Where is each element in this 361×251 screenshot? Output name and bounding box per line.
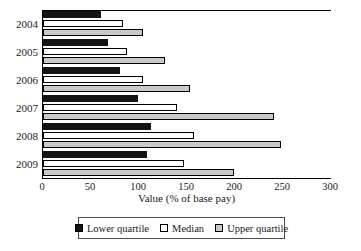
bar-group-2009 bbox=[43, 150, 331, 178]
x-tick-150: 150 bbox=[178, 181, 194, 192]
legend-label-lower-quartile: Lower quartile bbox=[87, 223, 149, 234]
x-axis-title: Value (% of base pay) bbox=[42, 192, 331, 204]
legend-label-median: Median bbox=[172, 223, 204, 234]
legend-item-median: Median bbox=[160, 223, 204, 234]
bar-2007-median bbox=[43, 104, 177, 111]
bar-group-2006 bbox=[43, 66, 331, 94]
legend-item-upper-quartile: Upper quartile bbox=[215, 223, 288, 234]
plot-area bbox=[42, 10, 331, 178]
legend-swatch-median bbox=[160, 224, 168, 232]
bar-2007-upper bbox=[43, 113, 274, 120]
x-tick-250: 250 bbox=[274, 181, 290, 192]
bar-2009-lower bbox=[43, 151, 147, 158]
bar-2008-upper bbox=[43, 141, 281, 148]
bar-2008-lower bbox=[43, 123, 151, 130]
x-axis-line bbox=[42, 178, 331, 179]
bar-2005-lower bbox=[43, 39, 108, 46]
bar-2009-median bbox=[43, 160, 184, 167]
x-tick-50: 50 bbox=[85, 181, 96, 192]
bar-chart: 200420052006200720082009 050100150200250… bbox=[0, 0, 361, 251]
y-axis-label-2009: 2009 bbox=[0, 159, 38, 170]
bar-2005-median bbox=[43, 48, 127, 55]
bar-2006-upper bbox=[43, 85, 190, 92]
y-axis-label-2004: 2004 bbox=[0, 19, 38, 30]
bar-2008-median bbox=[43, 132, 194, 139]
bar-2004-lower bbox=[43, 11, 101, 18]
bar-group-2008 bbox=[43, 122, 331, 150]
bar-2004-median bbox=[43, 20, 123, 27]
legend-swatch-lower-quartile bbox=[75, 224, 83, 232]
x-tick-300: 300 bbox=[322, 181, 338, 192]
legend-swatch-upper-quartile bbox=[215, 224, 223, 232]
bar-2004-upper bbox=[43, 29, 143, 36]
y-axis-label-2006: 2006 bbox=[0, 75, 38, 86]
bar-group-2007 bbox=[43, 94, 331, 122]
x-tick-0: 0 bbox=[39, 181, 44, 192]
bar-2007-lower bbox=[43, 95, 138, 102]
legend-item-lower-quartile: Lower quartile bbox=[75, 223, 149, 234]
bar-group-2005 bbox=[43, 38, 331, 66]
x-tick-200: 200 bbox=[226, 181, 242, 192]
y-axis-label-2008: 2008 bbox=[0, 131, 38, 142]
legend-label-upper-quartile: Upper quartile bbox=[227, 223, 288, 234]
y-axis-label-2005: 2005 bbox=[0, 47, 38, 58]
bar-2005-upper bbox=[43, 57, 165, 64]
x-tick-100: 100 bbox=[130, 181, 146, 192]
y-axis-label-2007: 2007 bbox=[0, 103, 38, 114]
bar-2006-lower bbox=[43, 67, 120, 74]
bar-2006-median bbox=[43, 76, 143, 83]
bar-group-2004 bbox=[43, 10, 331, 38]
bar-2009-upper bbox=[43, 169, 234, 176]
chart-legend: Lower quartile Median Upper quartile bbox=[78, 217, 285, 239]
